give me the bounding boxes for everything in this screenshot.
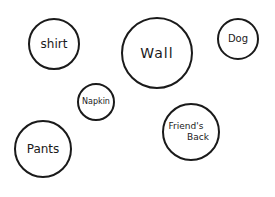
bubble-label-friends-back-line2: Back [187,133,209,142]
bubble-label-shirt: shirt [41,38,68,51]
bubble-label-friends-back-line1: Friend's [169,122,204,131]
bubble-friends-back: Friend's Back [162,103,220,161]
bubble-label-pants: Pants [27,143,60,156]
bubble-shirt: shirt [28,18,80,70]
bubble-pants: Pants [14,120,72,178]
diagram-canvas: shirt Wall Dog Napkin Pants Friend's Bac… [0,0,275,197]
bubble-label-dog: Dog [228,34,248,45]
bubble-napkin: Napkin [77,83,115,121]
bubble-dog: Dog [217,18,259,60]
bubble-wall: Wall [121,17,193,89]
bubble-label-napkin: Napkin [82,98,110,106]
bubble-label-wall: Wall [140,46,173,61]
